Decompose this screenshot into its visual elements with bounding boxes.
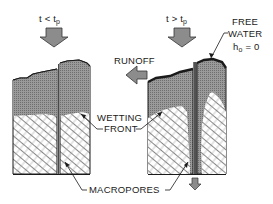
drainage-arrow xyxy=(189,178,201,190)
rain-arrow-right xyxy=(168,28,196,47)
free-water-label-2: WATER xyxy=(228,28,262,39)
runoff-arrow xyxy=(126,66,147,84)
condition-label-right: t > tp xyxy=(166,13,187,26)
condition-label-left: t < tp xyxy=(39,13,60,26)
saturated-zone-left-b xyxy=(60,60,90,116)
free-water-label-1: FREE xyxy=(232,16,258,27)
infiltration-diagram: t < tp t > tp RUNOFF xyxy=(0,0,273,204)
runoff-label: RUNOFF xyxy=(114,55,155,66)
wetting-front-label-2: FRONT xyxy=(104,123,138,134)
wetting-zone-right-a xyxy=(148,106,190,174)
panel-before-ponding: t < tp xyxy=(13,13,90,175)
panel-after-ponding: t > tp xyxy=(126,13,226,190)
wetting-front-label-1: WETTING xyxy=(97,112,142,123)
macropores-label: MACROPORES xyxy=(89,184,160,195)
head-label: ho = 0 xyxy=(233,41,260,53)
rain-arrow-left xyxy=(40,28,68,47)
saturated-zone-left-a xyxy=(13,69,57,116)
